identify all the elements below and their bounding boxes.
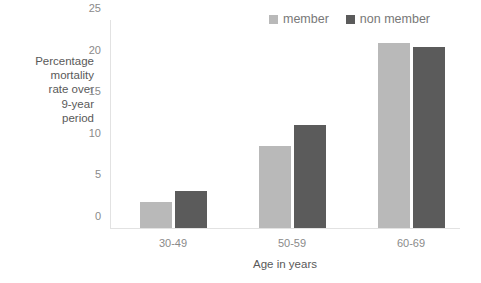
bar-non-member-30-49[interactable] bbox=[175, 191, 207, 228]
x-axis-tick-label: 50-59 bbox=[278, 237, 306, 249]
plot-area: 0510152025 30-4950-5960-69 bbox=[110, 20, 460, 229]
x-axis-tick-label: 60-69 bbox=[397, 237, 425, 249]
bar-non-member-50-59[interactable] bbox=[294, 125, 326, 228]
bar-non-member-60-69[interactable] bbox=[413, 47, 445, 228]
y-axis-tick-label: 20 bbox=[89, 44, 101, 56]
y-axis-title: Percentage mortality rate over 9-year pe… bbox=[6, 54, 94, 125]
x-axis-tick-label: 30-49 bbox=[159, 237, 187, 249]
bar-group: 60-69 bbox=[378, 43, 445, 228]
y-axis-tick-label: 15 bbox=[89, 85, 101, 97]
y-axis-tick-label: 25 bbox=[89, 2, 101, 14]
bar-group: 50-59 bbox=[259, 125, 326, 228]
bar-group: 30-49 bbox=[140, 191, 207, 228]
x-axis-line bbox=[110, 228, 460, 229]
y-axis-tick-label: 10 bbox=[89, 127, 101, 139]
y-axis-tick-label: 5 bbox=[95, 168, 101, 180]
y-axis-line bbox=[110, 20, 111, 229]
bar-member-50-59[interactable] bbox=[259, 146, 291, 228]
bar-member-30-49[interactable] bbox=[140, 202, 172, 228]
y-axis-tick-label: 0 bbox=[95, 210, 101, 222]
x-axis-title: Age in years bbox=[110, 258, 460, 270]
bar-chart-figure: member non member Percentage mortality r… bbox=[0, 0, 481, 283]
bar-member-60-69[interactable] bbox=[378, 43, 410, 228]
